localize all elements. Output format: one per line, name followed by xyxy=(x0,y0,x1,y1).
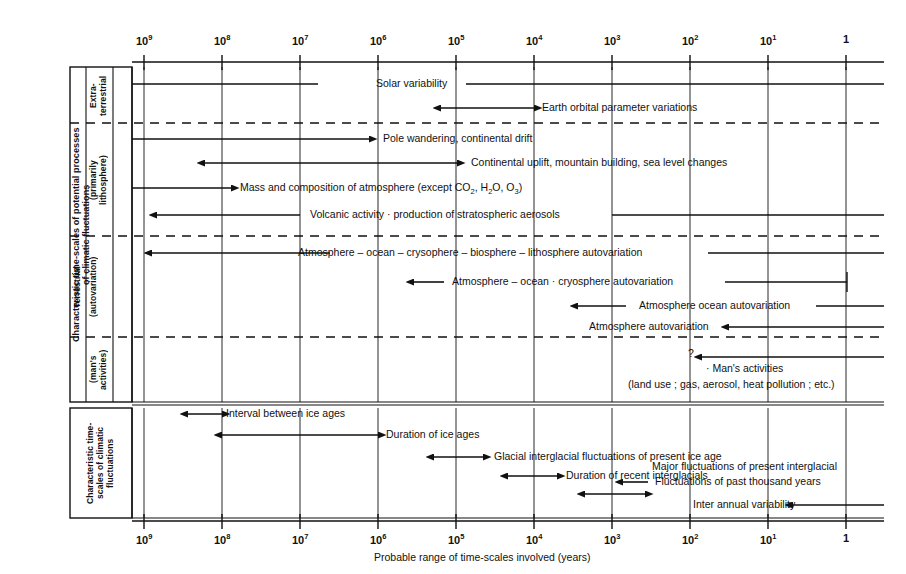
tick-label-top-7: 102 xyxy=(682,33,698,47)
label-interval-between-ice-ages: Interval between ice ages xyxy=(226,408,345,420)
tick-label-top-3: 106 xyxy=(370,33,386,47)
tick-label-bottom-8: 101 xyxy=(760,532,776,546)
label-mass-composition-part1: Mass and composition of atmosphere (exce… xyxy=(240,181,471,193)
axis-label-primarily-lithosphere: (primarily lithosphere) xyxy=(89,126,112,234)
tick-label-bottom-0: 109 xyxy=(136,532,152,546)
tick-label-top-8: 101 xyxy=(760,33,776,47)
tick-label-bottom-9: 1 xyxy=(843,532,849,544)
label-mass-composition-part3: O, O xyxy=(492,181,514,193)
label-mans-activities-sub: (land use ; gas, aerosol, heat pollution… xyxy=(628,379,835,391)
tick-label-top-9: 1 xyxy=(843,33,849,45)
tick-label-bottom-6: 103 xyxy=(604,532,620,546)
label-mass-composition-part4: ) xyxy=(519,181,523,193)
label-autovariation-full: Atmosphere – ocean – crysophere – biosph… xyxy=(298,247,642,259)
label-question-mark: ? xyxy=(688,348,694,360)
tick-label-bottom-2: 107 xyxy=(292,532,308,546)
tick-label-bottom-4: 105 xyxy=(448,532,464,546)
label-continental-uplift: Continental uplift, mountain building, s… xyxy=(471,157,727,169)
label-autovariation-ao: Atmosphere ocean autovariation xyxy=(639,300,790,312)
tick-label-top-0: 109 xyxy=(136,33,152,47)
label-duration-ice-ages: Duration of ice ages xyxy=(386,429,479,441)
tick-label-bottom-7: 102 xyxy=(682,532,698,546)
label-autovariation-aoc: Atmosphere – ocean · cryosphere autovari… xyxy=(452,276,673,288)
label-past-thousand-years: Fluctuations of past thousand years xyxy=(655,476,821,488)
label-earth-orbital: Earth orbital parameter variations xyxy=(542,102,697,114)
tick-label-bottom-3: 106 xyxy=(370,532,386,546)
label-autovariation-a: Atmosphere autovariation xyxy=(589,321,709,333)
figure-caption: Probable range of time-scales involved (… xyxy=(374,551,591,563)
axis-label-lower-outer: Characteristic time- scales of climatic … xyxy=(86,410,118,516)
tick-label-top-2: 107 xyxy=(292,33,308,47)
tick-label-bottom-5: 104 xyxy=(526,532,542,546)
label-mans-activities: · Man's activities xyxy=(706,363,783,375)
axis-label-autovariation: (autovariation) xyxy=(89,239,112,335)
top-axis xyxy=(132,55,884,70)
tick-label-bottom-1: 108 xyxy=(214,532,230,546)
axis-label-mans-activities: (man's activities) xyxy=(89,339,112,400)
label-inter-annual-variability: Inter annual variability xyxy=(693,499,795,511)
bottom-axis xyxy=(132,514,884,529)
axis-label-upper-outer: Characteristic time-scales of potential … xyxy=(71,70,87,400)
label-major-fluctuations: Major fluctuations of present interglaci… xyxy=(652,461,837,473)
label-volcanic-activity: Volcanic activity · production of strato… xyxy=(310,209,560,221)
tick-label-top-6: 103 xyxy=(604,33,620,47)
tick-label-top-4: 105 xyxy=(448,33,464,47)
label-pole-wandering: Pole wandering, continental drift xyxy=(383,133,532,145)
tick-label-top-1: 108 xyxy=(214,33,230,47)
axis-label-extra-terrestrial: Extra- terrestrial xyxy=(89,68,112,123)
label-mass-composition-part2: , H xyxy=(475,181,488,193)
label-solar-variability: Solar variability xyxy=(376,78,447,90)
tick-label-top-5: 104 xyxy=(526,33,542,47)
label-mass-composition: Mass and composition of atmosphere (exce… xyxy=(240,182,522,196)
axis-label-terrestrial: Terrestrial xyxy=(73,238,85,335)
